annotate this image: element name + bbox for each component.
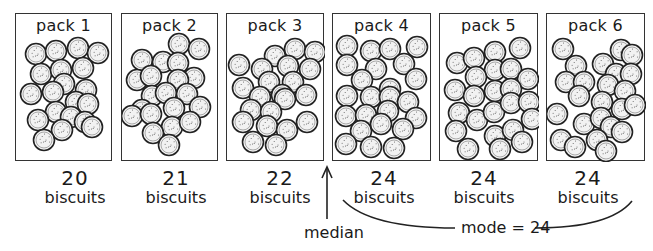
annotation-lines: [0, 0, 653, 251]
mode-label: mode = 24: [461, 218, 550, 237]
median-label: median: [304, 223, 364, 242]
biscuit-packs-diagram: pack 1 pack 2 pack 3 pack 4 pack 5 pack …: [0, 0, 653, 251]
